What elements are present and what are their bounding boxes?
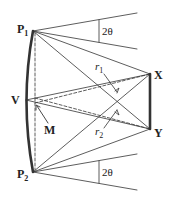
r1-arrowhead (115, 88, 119, 93)
wedge-top-upper (33, 13, 137, 31)
geometry-diagram: P1 P2 V M X Y r1 r2 2θ 2θ (0, 0, 171, 201)
label-r2: r2 (95, 125, 103, 140)
label-m: M (44, 123, 55, 137)
label-p1: P1 (17, 22, 28, 38)
ray-p1-y (33, 31, 150, 129)
label-angle-top: 2θ (102, 25, 113, 37)
m-pointer (37, 106, 48, 123)
wedge-top-lower (33, 31, 137, 49)
label-x: X (154, 68, 163, 82)
wedge-bottom-upper (33, 154, 137, 172)
label-y: Y (154, 126, 163, 140)
label-r1: r1 (95, 60, 103, 75)
label-angle-bottom: 2θ (102, 166, 113, 178)
label-p2: P2 (17, 167, 28, 183)
r2-arrowhead (115, 110, 119, 115)
ray-v-x (26, 74, 150, 100)
ray-p1-x (33, 31, 150, 74)
label-v: V (11, 93, 20, 107)
wedge-bottom-lower (33, 172, 137, 190)
